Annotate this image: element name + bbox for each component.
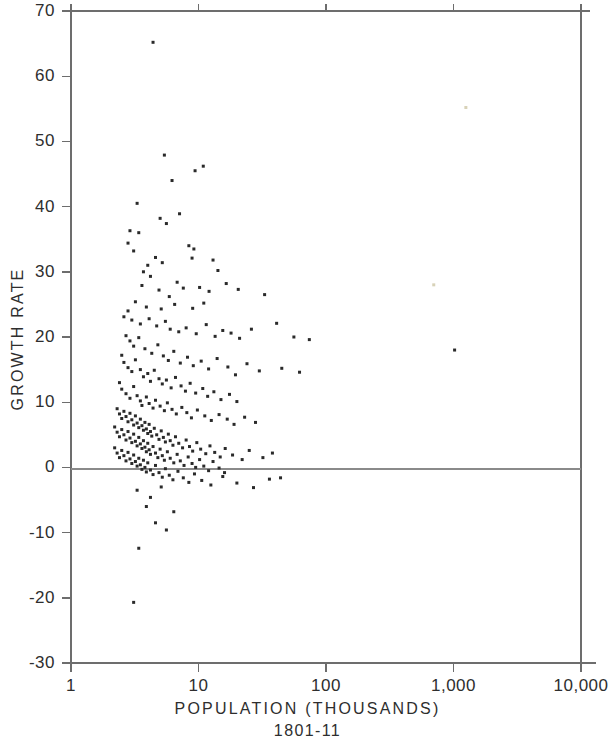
data-point bbox=[191, 462, 194, 465]
data-point bbox=[160, 307, 163, 310]
data-point bbox=[176, 453, 179, 456]
data-point bbox=[453, 349, 456, 352]
y-axis-ticks bbox=[62, 11, 71, 663]
data-point bbox=[292, 336, 295, 339]
data-point bbox=[149, 496, 152, 499]
data-point bbox=[160, 485, 163, 488]
data-point bbox=[172, 350, 175, 353]
data-point bbox=[137, 336, 140, 339]
data-point bbox=[254, 421, 257, 424]
data-point bbox=[237, 288, 240, 291]
data-point bbox=[185, 439, 188, 442]
x-axis-period-label: 1801-11 bbox=[0, 722, 615, 740]
data-point bbox=[132, 454, 135, 457]
data-point bbox=[212, 390, 215, 393]
data-point bbox=[145, 505, 148, 508]
data-point bbox=[199, 448, 202, 451]
data-point bbox=[127, 309, 130, 312]
data-point bbox=[118, 435, 121, 438]
data-point bbox=[128, 229, 131, 232]
data-point bbox=[204, 452, 207, 455]
data-point bbox=[130, 370, 133, 373]
data-point bbox=[210, 419, 213, 422]
data-point bbox=[125, 459, 128, 462]
data-point bbox=[252, 486, 255, 489]
data-point bbox=[243, 416, 246, 419]
data-point bbox=[187, 244, 190, 247]
data-point bbox=[235, 400, 238, 403]
data-point bbox=[271, 452, 274, 455]
data-point bbox=[127, 420, 130, 423]
data-point bbox=[161, 382, 164, 385]
data-point bbox=[128, 437, 131, 440]
data-point bbox=[190, 416, 193, 419]
data-point bbox=[179, 362, 182, 365]
data-point bbox=[206, 395, 209, 398]
data-point bbox=[134, 358, 137, 361]
data-point bbox=[181, 446, 184, 449]
data-point bbox=[120, 449, 123, 452]
data-point bbox=[130, 441, 133, 444]
data-point bbox=[161, 261, 164, 264]
data-point bbox=[158, 438, 161, 441]
data-point bbox=[183, 464, 186, 467]
data-point bbox=[173, 303, 176, 306]
data-point bbox=[139, 463, 142, 466]
data-point bbox=[228, 393, 231, 396]
data-point bbox=[156, 343, 159, 346]
data-point bbox=[148, 317, 151, 320]
y-tick-label: 40 bbox=[0, 197, 55, 217]
data-point bbox=[216, 269, 219, 272]
data-point bbox=[261, 456, 264, 459]
data-point bbox=[189, 382, 192, 385]
data-point bbox=[122, 361, 125, 364]
data-point bbox=[201, 387, 204, 390]
data-point bbox=[150, 352, 153, 355]
data-point bbox=[145, 395, 148, 398]
data-point bbox=[159, 405, 162, 408]
data-point bbox=[139, 442, 142, 445]
data-point bbox=[134, 460, 137, 463]
data-point bbox=[174, 435, 177, 438]
data-point bbox=[195, 332, 198, 335]
data-point bbox=[226, 418, 229, 421]
data-point bbox=[203, 414, 206, 417]
data-point bbox=[136, 202, 139, 205]
data-point bbox=[208, 290, 211, 293]
data-point bbox=[163, 409, 166, 412]
data-point bbox=[179, 459, 182, 462]
x-tick-label: 1 bbox=[66, 676, 76, 696]
data-point bbox=[155, 433, 158, 436]
data-point bbox=[118, 381, 121, 384]
data-point bbox=[136, 489, 139, 492]
data-point bbox=[159, 448, 162, 451]
data-point bbox=[150, 435, 153, 438]
data-point bbox=[161, 454, 164, 457]
y-tick-label: -30 bbox=[0, 653, 55, 673]
data-point bbox=[154, 399, 157, 402]
data-point bbox=[118, 412, 121, 415]
data-point bbox=[235, 482, 238, 485]
data-point bbox=[223, 471, 226, 474]
data-point bbox=[233, 423, 236, 426]
x-tick-label: 1,000 bbox=[431, 676, 476, 696]
y-tick-label: 70 bbox=[0, 1, 55, 21]
data-point bbox=[152, 445, 155, 448]
y-tick-label: 50 bbox=[0, 131, 55, 151]
data-point bbox=[139, 399, 142, 402]
x-tick-label: 10,000 bbox=[554, 676, 609, 696]
data-point bbox=[187, 481, 190, 484]
data-point bbox=[143, 446, 146, 449]
data-point bbox=[127, 366, 130, 369]
data-point bbox=[132, 601, 135, 604]
data-point bbox=[279, 476, 282, 479]
data-point bbox=[205, 323, 208, 326]
data-point bbox=[137, 457, 140, 460]
data-point bbox=[122, 410, 125, 413]
y-axis-title: GROWTH RATE bbox=[9, 239, 27, 439]
data-point bbox=[130, 418, 133, 421]
data-point bbox=[221, 475, 224, 478]
data-point bbox=[127, 451, 130, 454]
data-point bbox=[185, 411, 188, 414]
data-point bbox=[158, 377, 161, 380]
